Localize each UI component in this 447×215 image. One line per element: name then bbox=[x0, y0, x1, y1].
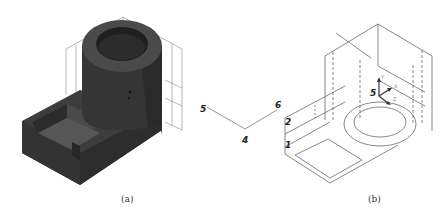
point-label-6: 6 bbox=[275, 100, 281, 110]
axis-label-z: Z bbox=[393, 96, 396, 102]
model-label-2: 2 bbox=[285, 117, 291, 127]
model-label-5: 5 bbox=[370, 88, 376, 98]
coordinate-system bbox=[377, 77, 392, 105]
point-label-5: 5 bbox=[200, 104, 206, 114]
construction-lines bbox=[207, 107, 277, 129]
figure-b-wireframe bbox=[285, 24, 432, 183]
axis-label-y: Y bbox=[381, 74, 384, 80]
model-label-1: 1 bbox=[285, 140, 291, 150]
caption-figure-a: (a) bbox=[121, 194, 133, 204]
figure-a-solid bbox=[22, 17, 182, 185]
axis-label-x: X bbox=[394, 83, 397, 89]
figure-canvas bbox=[0, 0, 447, 215]
caption-figure-b: (b) bbox=[368, 194, 381, 204]
point-label-4: 4 bbox=[242, 135, 248, 145]
